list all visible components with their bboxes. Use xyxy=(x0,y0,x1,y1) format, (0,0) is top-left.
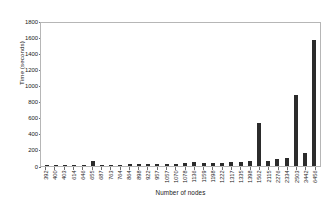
bar xyxy=(239,162,243,165)
bar xyxy=(303,153,307,166)
bar-slot xyxy=(51,23,60,166)
bar-slot xyxy=(217,23,226,166)
bar xyxy=(229,162,233,166)
bar xyxy=(294,95,298,166)
bar xyxy=(248,161,252,166)
y-axis-tick-label: 1200 xyxy=(16,67,38,73)
bar-slot xyxy=(301,23,310,166)
y-axis-tick-label: 1400 xyxy=(16,51,38,57)
y-axis-tick-label: 800 xyxy=(16,99,38,105)
bar xyxy=(91,161,95,166)
bar xyxy=(137,164,141,165)
bar xyxy=(257,123,261,165)
bar-slot xyxy=(42,23,51,166)
bar-slot xyxy=(125,23,134,166)
bar-slot xyxy=(153,23,162,166)
bar xyxy=(275,159,279,165)
x-axis-title: Number of nodes xyxy=(40,189,321,196)
bar-slot xyxy=(134,23,143,166)
bar xyxy=(312,40,316,166)
bar xyxy=(183,163,187,165)
bar xyxy=(63,165,67,166)
bar xyxy=(202,163,206,165)
bar-slot xyxy=(97,23,106,166)
bar-slot xyxy=(310,23,319,166)
bar-slot xyxy=(79,23,88,166)
bar xyxy=(146,164,150,165)
bar-slot xyxy=(273,23,282,166)
bar xyxy=(174,164,178,166)
bar-chart: Time (seconds) 0200400600800100012001400… xyxy=(0,0,326,211)
bar xyxy=(220,163,224,165)
bar-slot xyxy=(144,23,153,166)
bar-slot xyxy=(254,23,263,166)
bar xyxy=(155,164,159,165)
bar xyxy=(109,165,113,166)
bar xyxy=(118,165,122,166)
bar-slot xyxy=(88,23,97,166)
bar-slot xyxy=(199,23,208,166)
bar xyxy=(192,162,196,165)
bar-slot xyxy=(245,23,254,166)
bar-slot xyxy=(227,23,236,166)
bar xyxy=(72,165,76,166)
bar xyxy=(100,165,104,166)
bar xyxy=(128,164,132,165)
plot-area xyxy=(40,22,321,167)
bar xyxy=(165,164,169,166)
y-axis-tick-label: 400 xyxy=(16,131,38,137)
bar xyxy=(211,163,215,166)
bar-slot xyxy=(264,23,273,166)
y-axis-tick-label: 600 xyxy=(16,115,38,121)
bar xyxy=(82,165,86,166)
bar-slot xyxy=(107,23,116,166)
bar-slot xyxy=(190,23,199,166)
y-axis-tick-label: 1800 xyxy=(16,19,38,25)
bar-slot xyxy=(60,23,69,166)
y-axis-tick-label: 200 xyxy=(16,147,38,153)
bar-slot xyxy=(181,23,190,166)
bar-slot xyxy=(70,23,79,166)
y-axis-tick-label: 1000 xyxy=(16,83,38,89)
bar-slot xyxy=(171,23,180,166)
bar-slot xyxy=(236,23,245,166)
bar xyxy=(45,165,49,166)
bar-slot xyxy=(282,23,291,166)
y-axis-tick-label: 0 xyxy=(16,164,38,170)
bar xyxy=(54,165,58,166)
y-axis-tick-label: 1600 xyxy=(16,35,38,41)
y-axis-tick-labels: 020040060080010001200140016001800 xyxy=(16,16,38,168)
bar-slot xyxy=(116,23,125,166)
bar xyxy=(285,158,289,166)
bar xyxy=(266,161,270,166)
bar-series xyxy=(41,23,320,166)
bar-slot xyxy=(208,23,217,166)
bar-slot xyxy=(291,23,300,166)
bar-slot xyxy=(162,23,171,166)
